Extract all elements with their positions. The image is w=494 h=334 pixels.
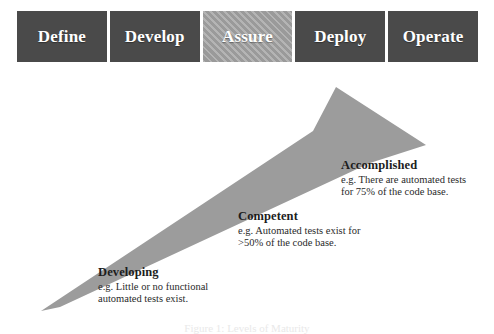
annotation-competent-line-1: e.g. Automated tests exist for bbox=[238, 225, 360, 237]
annotation-developing-line-1: e.g. Little or no functional bbox=[98, 281, 208, 293]
phase-box-develop[interactable]: Develop bbox=[110, 11, 200, 62]
annotation-accomplished-line-1: e.g. There are automated tests bbox=[341, 174, 466, 186]
phase-box-deploy[interactable]: Deploy bbox=[295, 11, 385, 62]
figure-caption: Figure 1: Levels of Maturity bbox=[0, 322, 494, 334]
annotation-developing-line-2: automated tests exist. bbox=[98, 293, 208, 305]
annotation-developing-title: Developing bbox=[98, 265, 208, 280]
annotation-accomplished: Accomplished e.g. There are automated te… bbox=[341, 158, 466, 199]
phase-label-deploy: Deploy bbox=[314, 27, 366, 47]
phase-label-develop: Develop bbox=[125, 27, 185, 47]
phase-box-operate[interactable]: Operate bbox=[388, 11, 478, 62]
annotation-accomplished-line-2: for 75% of the code base. bbox=[341, 186, 466, 198]
annotation-competent-title: Competent bbox=[238, 209, 360, 224]
phase-box-assure[interactable]: Assure bbox=[203, 11, 293, 62]
annotation-competent: Competent e.g. Automated tests exist for… bbox=[238, 209, 360, 250]
annotation-accomplished-title: Accomplished bbox=[341, 158, 466, 173]
phase-box-define[interactable]: Define bbox=[17, 11, 107, 62]
phase-label-define: Define bbox=[38, 27, 86, 47]
annotation-developing: Developing e.g. Little or no functional … bbox=[98, 265, 208, 306]
phase-band: Define Develop Assure Deploy Operate bbox=[17, 11, 478, 62]
annotation-competent-line-2: >50% of the code base. bbox=[238, 237, 360, 249]
phase-label-operate: Operate bbox=[403, 27, 464, 47]
phase-label-assure: Assure bbox=[222, 27, 273, 47]
